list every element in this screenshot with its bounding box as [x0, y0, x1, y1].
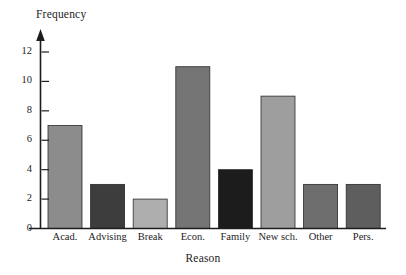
bar: [91, 184, 125, 228]
y-tick-label: 6: [10, 133, 32, 144]
y-tick-label: 12: [10, 45, 32, 56]
bar: [218, 170, 252, 229]
y-tick-label: 0: [10, 222, 32, 233]
x-tick-label: Pers.: [333, 231, 393, 242]
y-tick-label: 10: [10, 74, 32, 85]
bar: [304, 184, 338, 228]
y-axis-arrowhead: [36, 29, 45, 41]
y-tick-label: 4: [10, 163, 32, 174]
x-axis-title: Reason: [0, 252, 406, 264]
bar: [261, 96, 295, 228]
bar: [176, 67, 210, 229]
bar: [48, 126, 82, 229]
y-tick-label: 8: [10, 104, 32, 115]
bar: [133, 199, 167, 228]
y-tick-label: 2: [10, 192, 32, 203]
bar: [346, 184, 380, 228]
bars-group: [48, 67, 380, 229]
bar-chart: Frequency 024681012 Acad.AdvisingBreakEc…: [0, 0, 406, 275]
